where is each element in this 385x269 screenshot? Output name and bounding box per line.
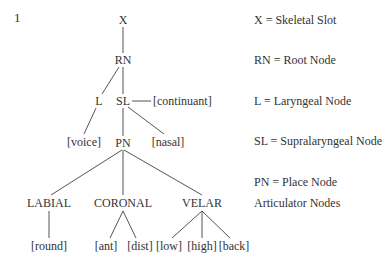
node-pn: PN (115, 136, 130, 150)
feature-round: [round] (31, 239, 67, 253)
feature-dist: [dist] (127, 239, 152, 253)
legend-l: L = Laryngeal Node (254, 94, 351, 108)
node-sl: SL (116, 94, 130, 108)
legend-rn: RN = Root Node (254, 53, 336, 67)
feature-back: [back] (219, 239, 250, 253)
legend-sl: SL = Supralaryngeal Node (254, 134, 382, 148)
legend-x: X = Skeletal Slot (254, 13, 336, 27)
feature-nasal: [nasal] (152, 135, 185, 149)
node-l: L (95, 94, 102, 108)
legend-pn: PN = Place Node (254, 175, 337, 189)
feature-low: [low] (156, 239, 182, 253)
legend-articulator: Articulator Nodes (254, 196, 340, 210)
node-rn: RN (115, 53, 132, 67)
node-labial: LABIAL (27, 196, 71, 210)
node-velar: VELAR (182, 196, 222, 210)
node-x: X (119, 13, 128, 27)
feature-continuant: [continuant] (153, 94, 212, 108)
feature-voice: [voice] (67, 135, 101, 149)
feature-high: [high] (187, 239, 216, 253)
node-coronal: CORONAL (94, 196, 152, 210)
feature-ant: [ant] (95, 239, 118, 253)
example-number: 1 (14, 11, 21, 25)
